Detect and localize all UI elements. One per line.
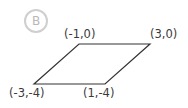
vertex-label-top-left: (-1,0)	[64, 29, 95, 41]
vertex-label-bottom-left: (-3,-4)	[9, 88, 45, 100]
vertex-label-bottom-right: (1,-4)	[83, 88, 114, 100]
parallelogram-shape	[34, 44, 150, 84]
vertex-label-top-right: (3,0)	[150, 29, 177, 41]
